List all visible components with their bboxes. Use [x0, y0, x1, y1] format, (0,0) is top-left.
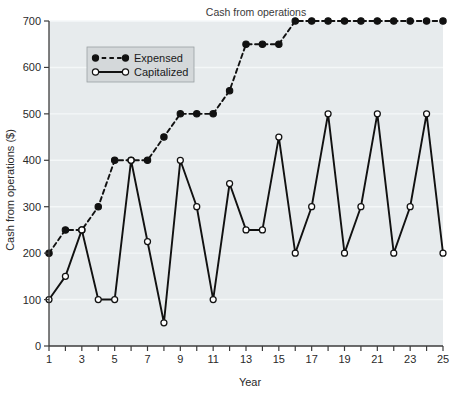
x-tick-label-21: 21 — [371, 353, 383, 365]
datapoint-capitalized-year-17 — [309, 204, 315, 210]
x-tick-label-17: 17 — [306, 353, 318, 365]
datapoint-capitalized-year-4 — [95, 297, 101, 303]
legend-label-capitalized: Capitalized — [134, 66, 188, 78]
y-tick-label-700: 700 — [23, 15, 41, 27]
datapoint-capitalized-year-19 — [342, 250, 348, 256]
datapoint-expensed-year-16 — [292, 18, 298, 24]
datapoint-capitalized-year-25 — [440, 250, 446, 256]
datapoint-capitalized-year-15 — [276, 134, 282, 140]
legend-marker-expensed-left — [92, 55, 98, 61]
datapoint-capitalized-year-23 — [407, 204, 413, 210]
datapoint-expensed-year-4 — [95, 204, 101, 210]
datapoint-expensed-year-15 — [276, 41, 282, 47]
x-tick-label-1: 1 — [46, 353, 52, 365]
datapoint-expensed-year-24 — [423, 18, 429, 24]
x-tick-label-9: 9 — [177, 353, 183, 365]
datapoint-capitalized-year-22 — [391, 250, 397, 256]
y-tick-label-100: 100 — [23, 294, 41, 306]
y-tick-label-300: 300 — [23, 201, 41, 213]
datapoint-capitalized-year-13 — [243, 227, 249, 233]
datapoint-capitalized-year-11 — [210, 297, 216, 303]
datapoint-expensed-year-20 — [358, 18, 364, 24]
datapoint-expensed-year-19 — [341, 18, 347, 24]
datapoint-expensed-year-14 — [259, 41, 265, 47]
datapoint-expensed-year-22 — [391, 18, 397, 24]
datapoint-capitalized-year-2 — [62, 273, 68, 279]
datapoint-expensed-year-21 — [374, 18, 380, 24]
chart-title: Cash from operations — [206, 6, 306, 18]
x-tick-label-25: 25 — [437, 353, 449, 365]
datapoint-expensed-year-11 — [210, 111, 216, 117]
datapoint-capitalized-year-16 — [292, 250, 298, 256]
datapoint-expensed-year-18 — [325, 18, 331, 24]
x-tick-label-19: 19 — [338, 353, 350, 365]
datapoint-expensed-year-8 — [161, 134, 167, 140]
datapoint-capitalized-year-12 — [227, 181, 233, 187]
datapoint-expensed-year-9 — [177, 111, 183, 117]
x-tick-label-11: 11 — [207, 353, 218, 365]
y-tick-label-400: 400 — [23, 154, 41, 166]
datapoint-expensed-year-7 — [144, 157, 150, 163]
datapoint-expensed-year-10 — [194, 111, 200, 117]
datapoint-capitalized-year-7 — [145, 239, 151, 245]
datapoint-capitalized-year-8 — [161, 320, 167, 326]
datapoint-expensed-year-5 — [111, 157, 117, 163]
x-tick-label-13: 13 — [240, 353, 252, 365]
chart-figure: 0100200300400500600700 13579111315171921… — [0, 0, 457, 394]
y-tick-label-200: 200 — [23, 247, 41, 259]
datapoint-capitalized-year-3 — [79, 227, 85, 233]
chart-legend[interactable]: Expensed Capitalized — [87, 47, 194, 82]
datapoint-expensed-year-23 — [407, 18, 413, 24]
datapoint-capitalized-year-6 — [128, 157, 134, 163]
y-tick-label-600: 600 — [23, 61, 41, 73]
datapoint-expensed-year-17 — [308, 18, 314, 24]
y-tick-label-500: 500 — [23, 108, 41, 120]
datapoint-expensed-year-25 — [440, 18, 446, 24]
cash-from-operations-line-chart: 0100200300400500600700 13579111315171921… — [0, 0, 457, 394]
datapoint-capitalized-year-21 — [374, 111, 380, 117]
x-tick-label-7: 7 — [144, 353, 150, 365]
x-tick-label-23: 23 — [404, 353, 416, 365]
y-tick-label-0: 0 — [35, 340, 41, 352]
datapoint-capitalized-year-14 — [259, 227, 265, 233]
x-tick-label-5: 5 — [112, 353, 118, 365]
datapoint-expensed-year-2 — [62, 227, 68, 233]
datapoint-capitalized-year-24 — [424, 111, 430, 117]
datapoint-capitalized-year-5 — [112, 297, 118, 303]
datapoint-capitalized-year-20 — [358, 204, 364, 210]
y-axis-title: Cash from operations ($) — [4, 129, 16, 251]
x-tick-label-3: 3 — [79, 353, 85, 365]
datapoint-capitalized-year-18 — [325, 111, 331, 117]
x-tick-label-15: 15 — [273, 353, 285, 365]
legend-label-expensed: Expensed — [134, 52, 183, 64]
legend-marker-expensed-right — [122, 55, 128, 61]
datapoint-capitalized-year-10 — [194, 204, 200, 210]
legend-marker-capitalized-left — [92, 69, 98, 75]
datapoint-expensed-year-12 — [226, 87, 232, 93]
datapoint-capitalized-year-9 — [177, 157, 183, 163]
datapoint-expensed-year-13 — [243, 41, 249, 47]
x-axis-title: Year — [239, 376, 262, 388]
legend-marker-capitalized-right — [122, 69, 128, 75]
